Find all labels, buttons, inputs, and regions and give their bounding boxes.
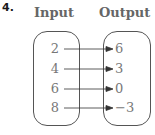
- arrowhead-icon: [106, 67, 113, 72]
- mapping-arrows: [0, 0, 155, 135]
- arrowhead-icon: [106, 106, 113, 111]
- arrowhead-icon: [106, 47, 113, 52]
- arrowhead-icon: [106, 87, 113, 92]
